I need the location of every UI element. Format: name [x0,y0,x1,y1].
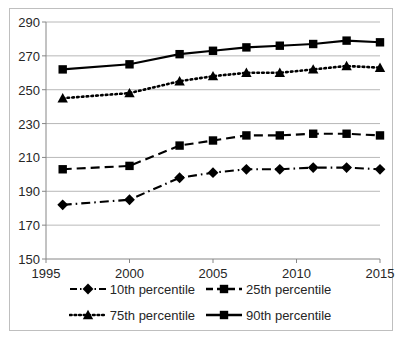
data-point-90th-percentile-2000 [125,60,133,68]
data-point-10th-percentile-2000 [124,194,135,205]
data-point-10th-percentile-1996 [57,199,68,210]
data-point-90th-percentile-2007 [242,43,250,51]
legend-key-solid-square-icon [205,308,243,322]
legend-label: 75th percentile [110,308,195,323]
data-point-10th-percentile-2005 [208,167,219,178]
legend-row: 75th percentile90th percentile [60,302,350,328]
y-tick-label: 270 [8,50,40,63]
x-tick-label: 2015 [356,267,403,280]
legend-marker [82,284,93,295]
chart-legend: 10th percentile25th percentile75th perce… [60,276,350,328]
y-tick-label: 170 [8,219,40,232]
data-point-25th-percentile-2013 [342,130,350,138]
legend-label: 10th percentile [110,282,195,297]
data-point-90th-percentile-2013 [342,36,350,44]
legend-item-25th-percentile: 25th percentile [205,282,341,297]
legend-key-dashdot-diamond-icon [69,282,107,296]
data-point-90th-percentile-2003 [175,50,183,58]
series-line-10th-percentile [63,168,380,205]
legend-item-10th-percentile: 10th percentile [69,282,205,297]
series-line-25th-percentile [63,134,380,170]
legend-row: 10th percentile25th percentile [60,276,350,302]
y-tick-label: 150 [8,253,40,266]
series-lines [63,41,380,205]
data-point-25th-percentile-1996 [59,165,67,173]
data-point-25th-percentile-2007 [242,131,250,139]
series-line-90th-percentile [63,41,380,70]
legend-key-dashed-square-icon [205,282,243,296]
data-point-25th-percentile-2005 [209,136,217,144]
legend-marker [220,311,228,319]
data-point-10th-percentile-2013 [341,162,352,173]
legend-item-90th-percentile: 90th percentile [205,308,341,323]
legend-key-dotted-triangle-icon [69,308,107,322]
data-point-25th-percentile-2011 [309,130,317,138]
data-point-10th-percentile-2009 [274,164,285,175]
data-point-25th-percentile-2015 [376,131,384,139]
data-point-25th-percentile-2003 [175,141,183,149]
legend-item-75th-percentile: 75th percentile [69,308,205,323]
y-tick-label: 190 [8,185,40,198]
data-point-10th-percentile-2011 [308,162,319,173]
legend-label: 90th percentile [246,308,331,323]
data-point-90th-percentile-2015 [376,38,384,46]
data-point-90th-percentile-2005 [209,47,217,55]
y-tick-label: 230 [8,118,40,131]
data-point-10th-percentile-2015 [375,164,386,175]
data-point-10th-percentile-2003 [174,172,185,183]
data-point-90th-percentile-1996 [59,65,67,73]
legend-label: 25th percentile [246,282,331,297]
data-point-25th-percentile-2009 [276,131,284,139]
data-point-25th-percentile-2000 [125,162,133,170]
data-point-90th-percentile-2009 [276,42,284,50]
y-tick-label: 290 [8,16,40,29]
data-point-10th-percentile-2007 [241,164,252,175]
series-line-75th-percentile [63,66,380,98]
legend-marker [220,285,228,293]
y-tick-label: 210 [8,151,40,164]
y-tick-label: 250 [8,84,40,97]
data-point-90th-percentile-2011 [309,40,317,48]
